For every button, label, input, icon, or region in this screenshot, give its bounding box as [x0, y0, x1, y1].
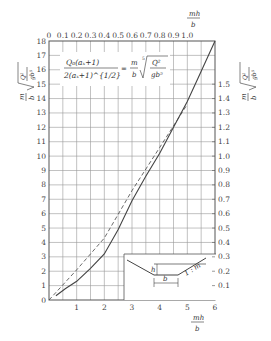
svg-text:6: 6: [41, 209, 46, 218]
x2-axis-label: mh b: [187, 10, 200, 29]
channel-inset: h b 1 : m: [124, 254, 216, 300]
formula-denominator: 2(aₓ+1)^{1/2}: [63, 71, 121, 80]
svg-text:2: 2: [102, 303, 107, 312]
svg-text:b: b: [132, 71, 137, 79]
y2-axis-label: m b Q² gb⁵: [240, 62, 258, 101]
svg-text:0: 0: [41, 296, 46, 305]
svg-text:1.0: 1.0: [181, 31, 193, 40]
svg-text:1.2: 1.2: [218, 123, 230, 132]
svg-text:0.1: 0.1: [218, 281, 230, 290]
svg-text:0.3: 0.3: [85, 31, 97, 40]
svg-text:8: 8: [41, 180, 46, 189]
svg-text:b: b: [191, 21, 196, 29]
svg-text:b: b: [250, 95, 258, 100]
svg-text:0.8: 0.8: [218, 180, 230, 189]
svg-text:0.2: 0.2: [71, 31, 83, 40]
svg-text:0.4: 0.4: [218, 238, 230, 247]
svg-text:mh: mh: [193, 314, 204, 322]
svg-text:1.1: 1.1: [218, 137, 230, 146]
svg-text:0.9: 0.9: [168, 31, 180, 40]
svg-text:0.2: 0.2: [218, 267, 230, 276]
svg-text:17: 17: [36, 51, 46, 60]
inset-h-label: h: [151, 266, 156, 274]
svg-text:b: b: [28, 95, 36, 100]
svg-text:1: 1: [74, 303, 79, 312]
svg-text:0.5: 0.5: [218, 224, 230, 233]
svg-text:13: 13: [36, 108, 46, 117]
svg-text:9: 9: [41, 166, 46, 175]
svg-text:m: m: [131, 59, 138, 67]
svg-text:16: 16: [36, 65, 46, 74]
svg-text:0.4: 0.4: [98, 31, 110, 40]
svg-text:0.8: 0.8: [154, 31, 166, 40]
svg-text:7: 7: [41, 195, 46, 204]
svg-text:5: 5: [185, 303, 190, 312]
inset-b-label: b: [163, 275, 168, 283]
svg-text:1.4: 1.4: [218, 94, 230, 103]
svg-text:0.1: 0.1: [57, 31, 69, 40]
x-axis-label: mh b: [191, 314, 204, 333]
svg-text:4: 4: [41, 238, 46, 247]
svg-text:12: 12: [36, 123, 46, 132]
svg-text:3: 3: [41, 252, 46, 261]
svg-text:0.3: 0.3: [218, 252, 230, 261]
svg-text:gb⁵: gb⁵: [151, 71, 163, 79]
svg-text:m: m: [18, 93, 26, 100]
svg-text:6: 6: [213, 303, 218, 312]
svg-text:Q²: Q²: [152, 59, 161, 67]
svg-text:5: 5: [41, 224, 46, 233]
svg-text:m: m: [240, 93, 248, 100]
svg-text:18: 18: [36, 37, 46, 46]
formula: Q₀(aₓ+1) 2(aₓ+1)^{1/2} = m b 5 Q² gb⁵: [60, 52, 170, 86]
svg-text:0.7: 0.7: [218, 195, 230, 204]
svg-text:11: 11: [36, 137, 46, 146]
svg-text:15: 15: [36, 80, 46, 89]
svg-text:0.9: 0.9: [218, 166, 230, 175]
svg-text:3: 3: [130, 303, 135, 312]
svg-text:gb⁵: gb⁵: [250, 69, 258, 80]
svg-text:b: b: [195, 325, 200, 333]
svg-text:1.0: 1.0: [218, 152, 230, 161]
svg-text:1.5: 1.5: [218, 80, 230, 89]
formula-numerator: Q₀(aₓ+1): [66, 58, 99, 67]
y-axis-label: m b Q² gb⁵: [18, 62, 36, 101]
svg-text:Q²: Q²: [241, 72, 248, 80]
svg-text:0.6: 0.6: [126, 31, 138, 40]
svg-text:14: 14: [36, 94, 46, 103]
svg-text:4: 4: [157, 303, 162, 312]
svg-text:1.3: 1.3: [218, 108, 230, 117]
svg-text:10: 10: [36, 152, 46, 161]
svg-text:0.5: 0.5: [112, 31, 124, 40]
svg-text:0.7: 0.7: [140, 31, 152, 40]
svg-text:gb⁵: gb⁵: [28, 69, 36, 80]
svg-text:0: 0: [47, 31, 52, 40]
svg-text:0.6: 0.6: [218, 209, 230, 218]
svg-text:Q²: Q²: [19, 72, 26, 80]
svg-text:5: 5: [142, 56, 145, 61]
chart: h b 1 : m Q₀(aₓ+1) 2(aₓ+1)^{1/2} = m b 5…: [0, 0, 271, 341]
svg-text:mh: mh: [189, 10, 200, 18]
svg-text:2: 2: [41, 267, 46, 276]
svg-text:1: 1: [41, 281, 46, 290]
formula-equals: =: [121, 65, 127, 73]
